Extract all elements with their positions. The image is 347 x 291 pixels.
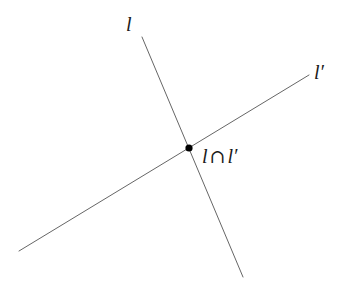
geometry-figure: l l′ l∩l′ xyxy=(0,0,347,291)
line-l-prime-label: l′ xyxy=(314,62,324,82)
intersection-point-label: l∩l′ xyxy=(202,146,237,166)
intersection-point-dot xyxy=(185,144,192,151)
intersection-label-left: l xyxy=(202,145,208,167)
line-l-label: l xyxy=(126,14,132,34)
figure-canvas xyxy=(0,0,347,291)
line-l-prime xyxy=(19,75,309,251)
intersection-operator-icon: ∩ xyxy=(208,145,228,167)
intersection-label-right: l′ xyxy=(227,145,237,167)
